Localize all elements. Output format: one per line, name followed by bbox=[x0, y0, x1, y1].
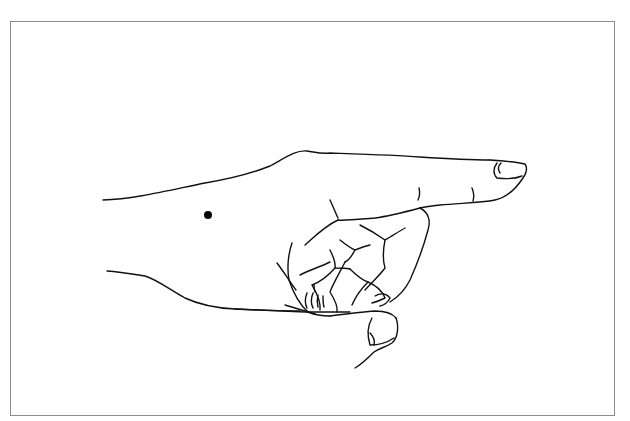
thumb-crease-5 bbox=[314, 285, 315, 292]
thumb-crease-1 bbox=[306, 293, 308, 308]
hand-bottom-to-thumb bbox=[235, 309, 300, 311]
index-crease-1 bbox=[418, 188, 420, 200]
curled-finger-web-3 bbox=[340, 240, 355, 262]
curled-finger-ring bbox=[368, 282, 385, 303]
pointing-hand-illustration bbox=[0, 0, 630, 421]
curled-finger-top bbox=[305, 220, 338, 245]
curled-finger-web-4 bbox=[330, 250, 350, 269]
thumb-crease-3 bbox=[317, 295, 318, 307]
curled-fingers-outline bbox=[390, 208, 429, 302]
hand-bottom-outline bbox=[107, 271, 350, 312]
fingernail-index-cuticle bbox=[499, 163, 501, 173]
curled-finger-web-8 bbox=[300, 262, 330, 275]
marker-dot bbox=[204, 211, 212, 219]
thumb-nail-cuticle bbox=[370, 333, 374, 345]
curled-finger-web-9 bbox=[330, 262, 345, 312]
palm-edge-short bbox=[277, 263, 296, 290]
little-fingernail bbox=[375, 294, 390, 306]
knuckle-line bbox=[330, 200, 338, 218]
index-underside bbox=[338, 208, 420, 220]
curled-finger-web-6 bbox=[350, 269, 368, 305]
hand-top-outline bbox=[103, 151, 490, 200]
thumb-crease-2 bbox=[312, 293, 314, 308]
index-crease-2 bbox=[472, 188, 474, 201]
thumb-crease-4 bbox=[323, 296, 324, 307]
curled-finger-web-1 bbox=[360, 225, 405, 240]
thumb-nail bbox=[368, 318, 394, 345]
thumb-tip bbox=[355, 318, 398, 368]
curled-finger-web-5 bbox=[355, 245, 370, 250]
